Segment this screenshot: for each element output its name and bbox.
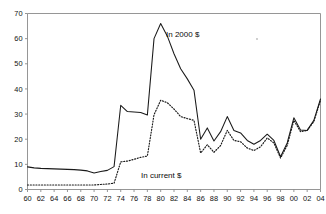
x-tick-label: 70 [90,194,98,203]
x-tick-label: 80 [157,194,165,203]
x-tick-label: 60 [23,194,31,203]
x-tick-label: 76 [130,194,138,203]
x-tick-label: 04 [316,194,324,203]
x-tick-label: 98 [276,194,284,203]
y-tick-label: 50 [14,59,22,68]
series-line-real-2000-dollars [28,24,321,173]
x-tick-label: 00 [290,194,298,203]
series-label-real: In 2000 $ [166,30,200,39]
x-tick-label: 62 [37,194,45,203]
y-tick-label: 30 [14,110,22,119]
x-tick-label: 64 [50,194,58,203]
x-tick-label: 68 [77,194,85,203]
x-axis-ticks: 6062646668707274767880828486889092949698… [23,190,324,204]
x-tick-label: 74 [117,194,125,203]
x-tick-label: 72 [103,194,111,203]
scan-artifact-speck [256,38,258,40]
series-label-nominal: In current $ [141,171,182,180]
x-tick-label: 96 [263,194,271,203]
y-tick-label: 0 [18,185,22,194]
x-tick-label: 90 [223,194,231,203]
x-tick-label: 78 [143,194,151,203]
y-tick-label: 20 [14,135,22,144]
x-tick-label: 84 [183,194,191,203]
y-axis-ticks: 010203040506070 [14,9,27,194]
y-tick-label: 10 [14,160,22,169]
y-tick-label: 60 [14,34,22,43]
x-tick-label: 02 [303,194,311,203]
chart-plot-area: 010203040506070 606264666870727476788082… [0,0,326,214]
x-tick-label: 82 [170,194,178,203]
oil-price-chart: 010203040506070 606264666870727476788082… [0,0,326,214]
x-tick-label: 94 [250,194,258,203]
x-tick-label: 66 [63,194,71,203]
x-tick-label: 88 [210,194,218,203]
y-tick-label: 70 [14,9,22,18]
x-tick-label: 92 [236,194,244,203]
x-tick-label: 86 [197,194,205,203]
y-tick-label: 40 [14,85,22,94]
